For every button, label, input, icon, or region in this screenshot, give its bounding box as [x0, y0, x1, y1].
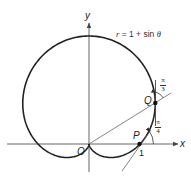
point-q-label: Q [144, 96, 152, 106]
origin-label: O [77, 147, 85, 157]
angle-q-denominator: 3 [161, 86, 165, 93]
curve-equation: r = 1 + sin θ [116, 29, 161, 39]
eq-rest: = 1 + sin [119, 29, 156, 39]
angle-label-q: π 3 [160, 77, 166, 93]
angle-q-numerator: π [161, 77, 165, 84]
point-p-tick-label: 1 [139, 148, 144, 158]
eq-theta: θ [157, 29, 161, 39]
angle-p-numerator: π [156, 119, 160, 126]
angle-label-p: π 4 [155, 119, 161, 135]
angle-arc-p [150, 132, 154, 145]
angle-p-denominator: 4 [156, 128, 160, 135]
point-p-label: P [133, 131, 140, 141]
point-p-dot [137, 142, 141, 146]
point-q-dot [153, 101, 157, 105]
x-axis-label: x [180, 139, 185, 149]
y-axis-label: y [85, 11, 90, 21]
